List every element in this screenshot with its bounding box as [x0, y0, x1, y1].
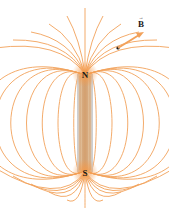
b-vector-accent: → — [139, 15, 144, 20]
north-pole-label: N — [82, 70, 89, 80]
field-line-loop — [0, 68, 82, 178]
field-line-loop — [88, 67, 169, 179]
south-pole-label: S — [82, 168, 87, 178]
field-line-loop — [11, 69, 82, 176]
field-line-north — [0, 46, 85, 74]
bar-magnet-field-diagram: N S B → — [0, 0, 169, 216]
field-line-loop — [88, 68, 169, 178]
b-vector-label: B — [138, 19, 144, 29]
field-line-north — [85, 46, 169, 74]
field-line-loop — [88, 69, 159, 176]
field-line-loop — [0, 67, 82, 179]
